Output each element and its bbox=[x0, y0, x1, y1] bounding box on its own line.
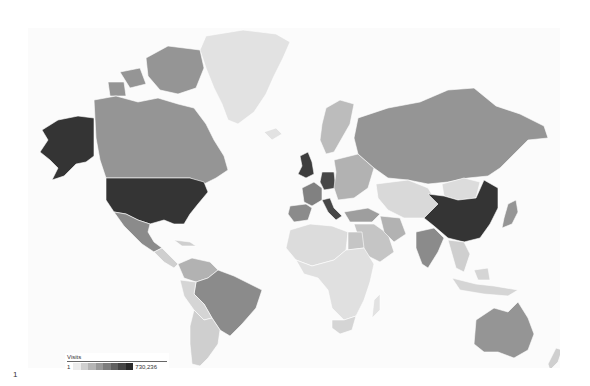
region-new-zealand[interactable]: New Zealand bbox=[548, 348, 560, 368]
region-france[interactable]: France bbox=[302, 182, 322, 206]
region-iceland[interactable]: Iceland bbox=[264, 128, 282, 140]
legend-step bbox=[126, 363, 134, 370]
legend-step bbox=[103, 363, 111, 370]
region-russia[interactable]: Russia bbox=[354, 88, 548, 184]
region-canada[interactable]: Canada bbox=[94, 96, 228, 184]
region-scandinavia[interactable]: Scandinavia bbox=[320, 100, 354, 154]
legend-scale: 1 730,236 bbox=[67, 363, 167, 370]
map-legend: Visits 1 730,236 bbox=[65, 353, 169, 372]
region-australia[interactable]: Australia bbox=[474, 302, 534, 358]
legend-min-label: 1 bbox=[67, 364, 70, 370]
legend-step bbox=[73, 363, 81, 370]
page-number: 1 bbox=[13, 370, 17, 379]
legend-max-label: 730,236 bbox=[135, 364, 157, 370]
region-greenland[interactable]: Greenland bbox=[200, 30, 290, 124]
region-italy[interactable]: Italy bbox=[322, 198, 342, 220]
region-india[interactable]: India bbox=[416, 228, 444, 268]
region-central-asia[interactable]: Central Asia bbox=[376, 180, 438, 218]
region-southeast-asia[interactable]: Southeast Asia bbox=[448, 240, 470, 272]
world-map[interactable]: Greenland Canada (Arctic islands) Canada… bbox=[28, 28, 560, 368]
region-japan[interactable]: Japan bbox=[502, 200, 518, 228]
region-madagascar[interactable]: Madagascar bbox=[372, 294, 380, 318]
region-germany[interactable]: Germany bbox=[320, 172, 336, 190]
region-canada-arctic[interactable]: Canada (Arctic islands) bbox=[108, 46, 204, 96]
legend-step bbox=[111, 363, 119, 370]
region-egypt[interactable]: Egypt bbox=[348, 232, 364, 250]
region-indonesia[interactable]: Indonesia bbox=[452, 268, 518, 296]
map-canvas[interactable]: Greenland Canada (Arctic islands) Canada… bbox=[28, 28, 560, 368]
region-turkey[interactable]: Turkey bbox=[344, 208, 380, 222]
region-spain[interactable]: Spain bbox=[288, 204, 312, 222]
region-alaska[interactable]: United States (Alaska) bbox=[40, 116, 94, 180]
legend-step bbox=[96, 363, 104, 370]
region-uk[interactable]: United Kingdom bbox=[298, 152, 314, 178]
legend-step bbox=[81, 363, 89, 370]
legend-step bbox=[88, 363, 96, 370]
legend-title: Visits bbox=[67, 354, 167, 362]
legend-step bbox=[118, 363, 126, 370]
legend-gradient-bar bbox=[73, 363, 133, 370]
